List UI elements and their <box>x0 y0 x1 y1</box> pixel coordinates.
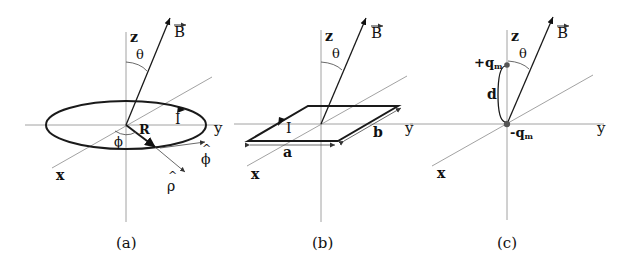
theta-arc <box>321 62 342 70</box>
phi-hat-caret: ^ <box>202 142 211 155</box>
b-label: B <box>371 24 382 42</box>
x-axis <box>432 75 593 166</box>
x-axis <box>52 77 212 168</box>
panel-a: z y x B θ ϕ R I ϕ ^ ρ ^ (a) <box>25 18 223 252</box>
positive-charge-dot <box>504 62 510 68</box>
dimension-a-label: a <box>283 144 292 160</box>
r-label: R <box>139 122 150 137</box>
diagram-canvas: z y x B θ ϕ R I ϕ ^ ρ ^ (a) z y x B θ I <box>0 0 629 269</box>
b-label: B <box>174 23 185 41</box>
positive-charge-label: +qm <box>474 55 503 71</box>
theta-label: θ <box>136 47 144 62</box>
separation-d-label: d <box>487 86 497 102</box>
z-label: z <box>130 29 138 45</box>
b-label: B <box>557 24 568 42</box>
z-label: z <box>325 28 333 44</box>
caption-c: (c) <box>497 234 517 252</box>
panel-b: z y x B θ I a b (b) <box>234 18 414 252</box>
theta-arc <box>126 62 147 71</box>
phi-angle-label: ϕ <box>114 134 123 149</box>
x-label: x <box>437 165 446 181</box>
x-label: x <box>56 167 65 183</box>
caption-b: (b) <box>312 234 333 252</box>
theta-label: θ <box>519 46 527 61</box>
y-label: y <box>213 119 223 137</box>
panel-c: z y x B θ +qm -qm d (c) <box>410 17 606 252</box>
current-label: I <box>286 120 292 136</box>
current-direction-arrow <box>278 117 285 126</box>
z-label: z <box>511 28 519 44</box>
caption-a: (a) <box>116 234 137 252</box>
separation-d-bracket <box>498 66 505 122</box>
dimension-b-label: b <box>373 124 383 140</box>
x-label: x <box>251 166 260 182</box>
negative-charge-label: -qm <box>510 125 534 141</box>
y-label: y <box>404 119 414 137</box>
current-label: I <box>175 111 181 127</box>
y-label: y <box>596 119 606 137</box>
theta-label: θ <box>332 46 340 61</box>
theta-arc <box>508 61 529 69</box>
x-axis <box>247 76 407 166</box>
rho-hat-caret: ^ <box>168 169 177 182</box>
